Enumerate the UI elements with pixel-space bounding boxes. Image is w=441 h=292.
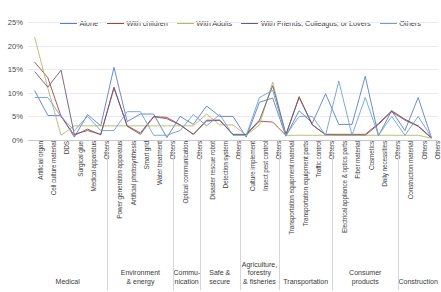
x-tick-label: Transportation equipment parts [302, 141, 309, 227]
x-tick-label: Disaster rescue robot [209, 141, 216, 200]
y-tick-label: 5% [12, 112, 23, 121]
x-tick-label: Traffic control [315, 141, 322, 178]
x-tick-label: DDS [63, 141, 70, 154]
x-tick-label: Cosmetics [368, 141, 375, 170]
x-tick-label: Optical communication [182, 141, 189, 204]
group-separator [107, 150, 108, 290]
x-tick-label: Artificial photosynthesis [130, 141, 137, 205]
x-tick-label: Others [434, 141, 441, 160]
x-tick-label: Transportation equipment material [288, 141, 295, 235]
x-tick-label: Artificial organ [37, 141, 44, 180]
y-tick-label: 0% [12, 136, 23, 145]
x-tick-label: Detection system [222, 141, 229, 188]
y-tick-label: 20% [8, 41, 23, 50]
group-separator [200, 150, 201, 290]
series-line-0 [35, 67, 432, 137]
x-tick-label: Smart grid [143, 141, 150, 169]
group-band: MedicalEnvironment & energyCommu- nicati… [28, 246, 438, 290]
group-label-2: Commu- nication [173, 269, 199, 286]
plot-area [28, 22, 438, 140]
group-label-3: Safe & secure [200, 269, 240, 286]
group-separator [279, 150, 280, 290]
x-tick-label: Cell culture material [50, 141, 57, 195]
y-axis-labels: 0%5%10%15%20%25% [0, 22, 26, 140]
group-separator [332, 150, 333, 290]
group-label-4: Agriculture, forestry & fisheries [240, 261, 280, 286]
x-tick-label: Others [421, 141, 428, 160]
series-lines [28, 22, 438, 140]
y-tick-label: 15% [8, 65, 23, 74]
x-axis-labels: Artificial organCell culture materialDDS… [28, 141, 438, 247]
group-separator [240, 150, 241, 290]
group-label-1: Environment & energy [107, 269, 173, 286]
x-tick-label: Construction material [407, 141, 414, 199]
group-label-7: Construction [398, 278, 438, 286]
x-tick-label: Electrical appliance & optics parts [341, 141, 348, 233]
x-tick-label: Power generation apparatus [116, 141, 123, 219]
group-separator [398, 150, 399, 290]
x-tick-label: Insect pest control [262, 141, 269, 191]
y-tick-label: 25% [8, 18, 23, 27]
x-tick-label: Daily necessities [381, 141, 388, 187]
group-separator [173, 150, 174, 290]
y-tick-label: 10% [8, 88, 23, 97]
x-tick-label: Fiber material [354, 141, 361, 179]
series-line-3 [35, 70, 432, 138]
group-label-5: Transportation [279, 278, 332, 286]
x-tick-label: Culture implement [249, 141, 256, 191]
series-line-1 [35, 62, 432, 138]
x-tick-label: Medical apparatus [90, 141, 97, 192]
x-tick-label: Water treatment [156, 141, 163, 185]
group-label-6: Consumer products [332, 269, 398, 286]
x-tick-label: Surgical glue [77, 141, 84, 177]
group-label-0: Medical [28, 278, 107, 286]
